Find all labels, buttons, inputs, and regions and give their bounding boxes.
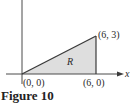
x-axis-label: x xyxy=(124,68,130,79)
region-label: R xyxy=(66,56,73,67)
point-label-bottom-right: (6, 0) xyxy=(83,77,105,89)
figure-caption: Figure 10 xyxy=(1,88,54,104)
point-label-top-right: (6, 3) xyxy=(98,29,120,41)
x-axis-arrow-icon xyxy=(117,72,124,77)
